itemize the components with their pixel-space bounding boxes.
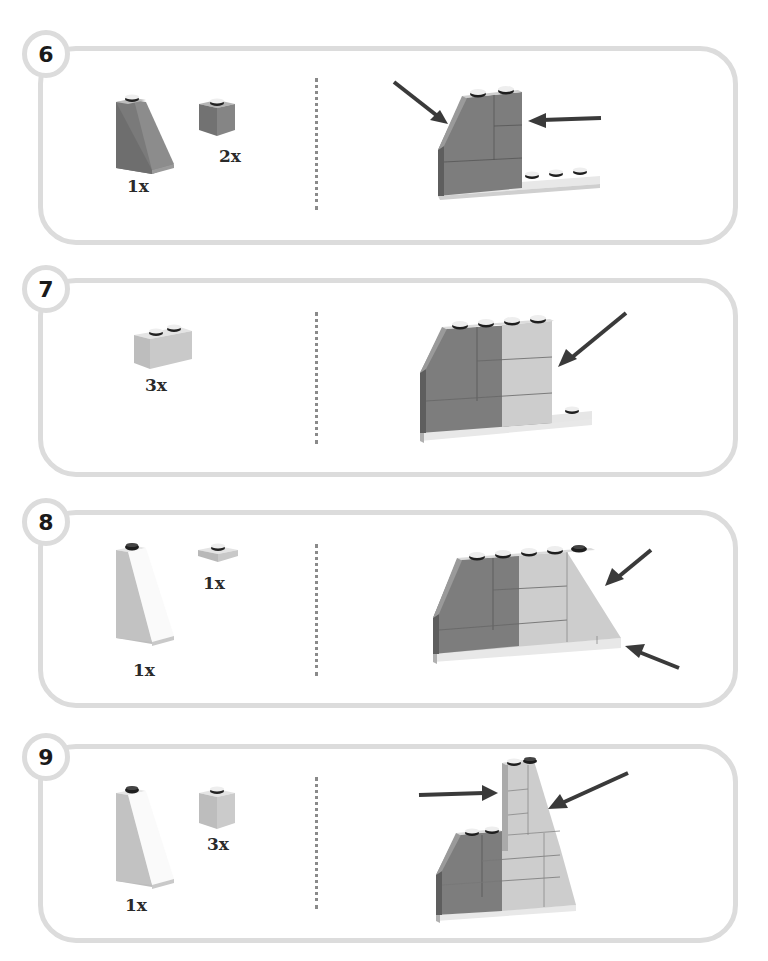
- part-quantity: 3x: [207, 834, 229, 854]
- step-number-badge: 9: [22, 733, 70, 781]
- divider: [315, 312, 318, 444]
- step-9: 9 1x 3x: [22, 733, 738, 945]
- assembly-model-step-9: [392, 751, 652, 931]
- part-brick-1x1-dark-gray-icon: [197, 96, 239, 138]
- part-brick-1x1-light-gray-icon: [197, 783, 239, 833]
- part-slope-dark-gray-icon: [116, 94, 176, 174]
- step-number: 7: [38, 277, 53, 302]
- step-6: 6 1x 2x: [22, 30, 738, 245]
- step-number: 8: [38, 510, 53, 535]
- part-quantity: 2x: [219, 146, 241, 166]
- step-number-badge: 6: [22, 30, 70, 78]
- assembly-model-step-6: [382, 70, 612, 210]
- divider: [315, 777, 318, 909]
- assembly-model-step-8: [407, 538, 687, 678]
- part-quantity: 1x: [127, 176, 149, 196]
- divider: [315, 78, 318, 210]
- step-number: 9: [38, 745, 53, 770]
- part-quantity: 1x: [203, 573, 225, 593]
- divider: [315, 544, 318, 676]
- step-number-badge: 8: [22, 498, 70, 546]
- part-slope-tall-light-gray-icon: [116, 538, 178, 650]
- part-quantity: 1x: [133, 660, 155, 680]
- step-number-badge: 7: [22, 265, 70, 313]
- step-7: 7 3x: [22, 265, 738, 477]
- part-slope-tall-light-gray-icon: [116, 781, 178, 893]
- part-plate-1x1-light-gray-icon: [196, 540, 240, 564]
- step-8: 8 1x 1x: [22, 498, 738, 710]
- assembly-model-step-7: [402, 305, 642, 455]
- step-number: 6: [38, 42, 53, 67]
- part-quantity: 1x: [125, 895, 147, 915]
- part-quantity: 3x: [145, 375, 167, 395]
- part-brick-1x2-light-gray-icon: [132, 321, 194, 373]
